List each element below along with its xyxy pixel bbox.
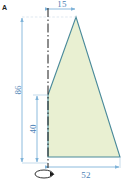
- profile-shape: [48, 17, 120, 157]
- dimension-base-width: 52: [49, 167, 119, 180]
- dimension-label-overall-height: 86: [13, 85, 23, 95]
- rotation-axis-icon: [35, 170, 55, 178]
- dimension-top-width: 15: [49, 0, 75, 9]
- dimension-lower-height: 40: [28, 96, 38, 162]
- dimension-overall-height: 86: [13, 18, 23, 162]
- dimension-label-base-width: 52: [81, 170, 90, 180]
- technical-drawing-canvas: A 15 86 40 52: [0, 0, 135, 182]
- dimension-label-lower-height: 40: [28, 124, 38, 134]
- sheet-reference-mark: A: [2, 4, 7, 11]
- dimension-label-top-width: 15: [57, 0, 67, 9]
- revolution-profile-drawing: A 15 86 40 52: [0, 0, 135, 182]
